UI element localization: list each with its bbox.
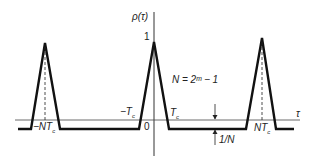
x-axis-label: τ: [296, 109, 300, 119]
ntc-label: NTc: [254, 123, 270, 135]
offset-label: 1/N: [219, 135, 235, 145]
minus-ntc-label: −NTc: [33, 122, 55, 134]
autocorrelation-diagram: [0, 0, 315, 160]
arrow-down-icon: [213, 115, 218, 120]
minus-tc-label: −Tc: [120, 107, 135, 119]
origin-label: 0: [144, 122, 150, 132]
tc-label: Tc: [170, 108, 179, 120]
y-axis-label: ρ(τ): [132, 12, 148, 22]
equation-label: N = 2ᵐ − 1: [172, 75, 218, 85]
autocorrelation-curve: [18, 38, 294, 129]
peak-value-label: 1: [144, 32, 150, 42]
